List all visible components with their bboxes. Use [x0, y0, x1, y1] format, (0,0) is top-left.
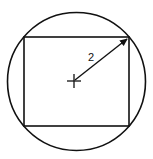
radius-label: 2 — [88, 51, 94, 63]
inscribed-rectangle-diagram: 2 — [0, 0, 153, 159]
radius-arrow — [75, 39, 127, 80]
